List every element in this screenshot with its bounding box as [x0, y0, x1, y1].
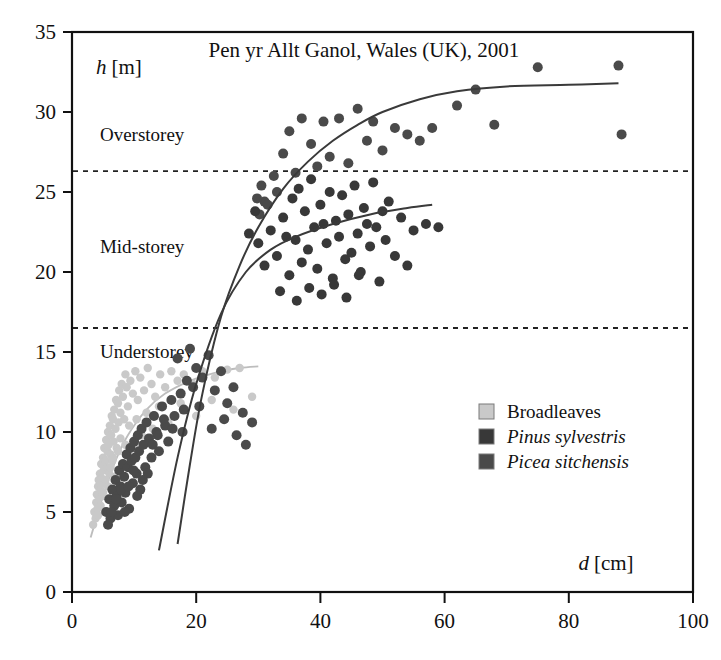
data-point	[272, 251, 282, 261]
data-point	[167, 367, 175, 375]
data-point	[303, 245, 313, 255]
data-point	[252, 193, 262, 203]
data-point	[156, 370, 164, 378]
conifer-growth-curve	[178, 83, 619, 544]
data-point	[300, 206, 310, 216]
data-point	[120, 507, 130, 517]
data-point	[284, 126, 294, 136]
data-point	[396, 213, 406, 223]
data-point	[390, 251, 400, 261]
data-point	[143, 469, 153, 479]
data-point	[173, 353, 183, 363]
data-point	[325, 152, 335, 162]
data-point	[325, 187, 335, 197]
data-point	[287, 193, 297, 203]
data-point	[297, 113, 307, 123]
data-point	[354, 270, 364, 280]
data-point	[433, 222, 443, 232]
legend-label-picea-sitchensis: Picea sitchensis	[506, 451, 629, 472]
legend-label-broadleaves: Broadleaves	[507, 401, 601, 422]
data-point	[402, 261, 412, 271]
data-point	[169, 411, 179, 421]
data-point	[136, 373, 144, 381]
data-point	[147, 380, 155, 388]
data-point	[210, 385, 220, 395]
data-point	[106, 463, 114, 471]
data-point	[294, 184, 304, 194]
data-point	[222, 398, 232, 408]
data-point	[124, 402, 132, 410]
data-point	[151, 393, 159, 401]
y-tick-label-20: 20	[35, 260, 56, 284]
data-point	[228, 382, 238, 392]
data-point	[374, 277, 384, 287]
data-point	[378, 145, 388, 155]
data-point	[368, 177, 378, 187]
data-point	[329, 280, 339, 290]
y-tick-label-25: 25	[35, 180, 56, 204]
data-point	[119, 472, 129, 482]
data-point	[250, 206, 260, 216]
data-point	[235, 364, 243, 372]
data-point	[371, 222, 381, 232]
data-point	[304, 283, 314, 293]
storey-label-mid-storey: Mid-storey	[100, 236, 185, 257]
data-point	[161, 383, 169, 391]
data-point	[402, 129, 412, 139]
x-tick-label-0: 0	[67, 609, 78, 633]
data-point	[241, 440, 251, 450]
x-tick-label-20: 20	[186, 609, 207, 633]
y-axis-var: h	[96, 55, 107, 79]
y-axis-title: h[m]	[96, 55, 142, 79]
data-point	[219, 414, 229, 424]
data-point	[306, 174, 316, 184]
data-point	[103, 520, 113, 530]
y-tick-label-10: 10	[35, 420, 56, 444]
data-point	[617, 129, 627, 139]
x-axis-var: d	[578, 551, 589, 575]
data-point	[613, 61, 623, 71]
data-point	[260, 261, 270, 271]
data-point	[132, 415, 140, 423]
data-point	[343, 158, 353, 168]
data-point	[232, 430, 242, 440]
data-point	[269, 171, 279, 181]
y-tick-label-30: 30	[35, 100, 56, 124]
data-point	[390, 123, 400, 133]
data-point	[353, 229, 363, 239]
plot-frame	[72, 32, 693, 592]
data-point	[312, 161, 322, 171]
data-point	[415, 136, 425, 146]
data-point	[452, 101, 462, 111]
data-point	[119, 393, 127, 401]
data-point	[134, 396, 142, 404]
legend-swatch-pinus-sylvestris	[479, 429, 494, 444]
data-point	[208, 396, 216, 404]
x-axis-title: d[cm]	[578, 551, 633, 575]
x-tick-label-100: 100	[677, 609, 709, 633]
x-axis-unit: [cm]	[594, 551, 634, 575]
data-point	[362, 219, 372, 229]
data-point	[173, 377, 181, 385]
data-point	[278, 149, 288, 159]
data-point	[163, 437, 173, 447]
legend-swatch-broadleaves	[479, 404, 494, 419]
data-point	[350, 181, 360, 191]
data-point	[207, 424, 217, 434]
y-tick-label-0: 0	[46, 580, 57, 604]
legend-label-pinus-sylvestris: Pinus sylvestris	[506, 426, 626, 447]
x-tick-label-80: 80	[558, 609, 579, 633]
data-point	[533, 62, 543, 72]
legend: BroadleavesPinus sylvestrisPicea sitchen…	[479, 401, 629, 472]
y-tick-label-5: 5	[46, 500, 57, 524]
data-point	[427, 123, 437, 133]
data-point	[489, 120, 499, 130]
data-point	[168, 424, 178, 434]
data-point	[159, 414, 169, 424]
storey-label-overstorey: Overstorey	[100, 124, 185, 145]
data-point	[238, 408, 248, 418]
data-point	[297, 257, 307, 267]
data-point	[107, 507, 117, 517]
data-point	[292, 296, 302, 306]
data-point	[128, 465, 138, 475]
